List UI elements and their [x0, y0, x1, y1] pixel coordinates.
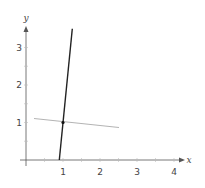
- x-tick-label-1: 1: [60, 167, 66, 177]
- x-tick-label-3: 3: [134, 167, 140, 177]
- normal-line: [34, 119, 119, 128]
- tangent-line: [59, 29, 72, 160]
- x-axis-arrow-icon: [179, 158, 185, 163]
- x-tick-label-2: 2: [97, 167, 103, 177]
- x-axis-label: x: [186, 155, 191, 165]
- y-tick-label-3: 3: [16, 43, 22, 53]
- chart: 1 2 3 4 1 2 3 x y: [0, 0, 205, 188]
- y-axis-label: y: [22, 13, 29, 23]
- y-tick-label-2: 2: [16, 80, 22, 90]
- axes: [20, 26, 185, 166]
- intersection-point: [61, 121, 64, 124]
- chart-svg: 1 2 3 4 1 2 3 x y: [0, 0, 205, 188]
- y-axis-arrow-icon: [24, 26, 29, 32]
- y-tick-label-1: 1: [16, 118, 22, 128]
- x-tick-label-4: 4: [171, 167, 177, 177]
